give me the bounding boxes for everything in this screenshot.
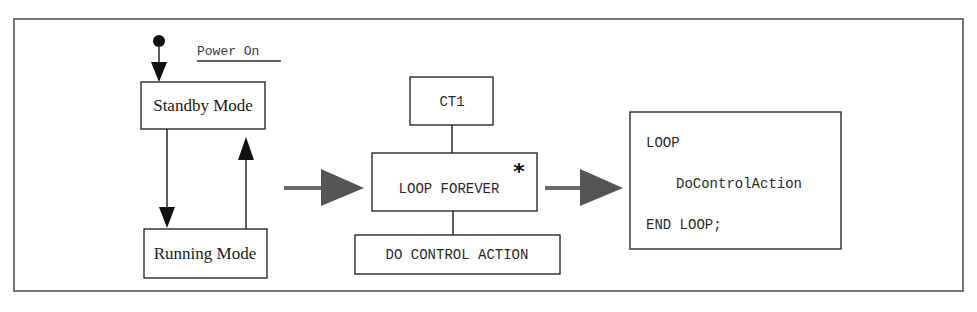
loop-forever-label: LOOP FOREVER [399, 181, 500, 197]
code-block: LOOP DoControlAction END LOOP; [630, 112, 841, 249]
standby-mode-label: Standby Mode [153, 96, 253, 115]
initial-state-dot [153, 35, 165, 47]
power-on-label: Power On [197, 44, 259, 59]
iteration-star-icon: * [513, 159, 525, 184]
do-control-action-label: DO CONTROL ACTION [386, 247, 529, 263]
code-line-body: DoControlAction [676, 176, 802, 192]
diagram-canvas: Power On Standby Mode Running Mode CT1 L… [0, 0, 977, 312]
ct1-label: CT1 [439, 94, 464, 110]
running-mode-label: Running Mode [154, 244, 256, 263]
code-line-loop: LOOP [646, 135, 680, 151]
code-line-end-loop: END LOOP; [646, 217, 722, 233]
